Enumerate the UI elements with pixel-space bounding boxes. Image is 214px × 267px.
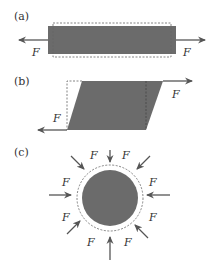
force-label-c2: F (121, 149, 130, 162)
force-label-top: F (171, 88, 180, 101)
force-label-left: F (31, 46, 40, 59)
force-label-c4: F (148, 176, 157, 189)
sheared-block (67, 81, 163, 130)
panel-b: (b) F F (14, 75, 192, 130)
force-label-c6: F (148, 211, 157, 224)
arrow-top-right-icon (137, 156, 150, 169)
force-label-bottom: F (52, 112, 61, 125)
stress-diagram: (a) F F (b) F F (c) F F F F F (0, 0, 214, 267)
panel-a: (a) F F (14, 10, 205, 59)
panel-b-label: (b) (14, 75, 30, 88)
stretched-bar (48, 26, 176, 54)
force-label-c3: F (61, 176, 70, 189)
force-label-c8: F (123, 236, 132, 249)
panel-c-label: (c) (14, 146, 29, 159)
arrow-top-left-icon (71, 156, 84, 169)
panel-a-label: (a) (14, 10, 29, 23)
arrow-bottom-right-icon (135, 225, 148, 238)
force-label-c5: F (61, 211, 70, 224)
compressed-sphere (82, 170, 138, 226)
force-label-right: F (182, 46, 191, 59)
force-label-c7: F (86, 236, 95, 249)
panel-c: (c) F F F F F F F F (14, 146, 170, 260)
force-label-c1: F (89, 149, 98, 162)
